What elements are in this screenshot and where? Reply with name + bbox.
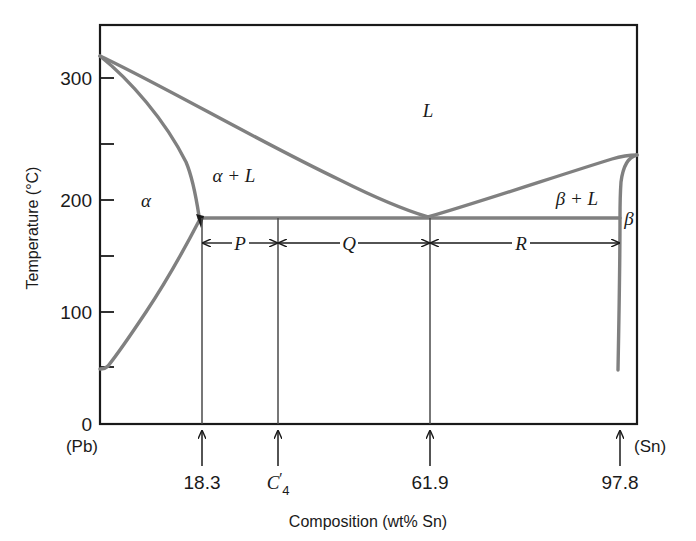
phase-region-labels: α α + L L β + L β <box>141 100 634 229</box>
liquidus-beta-curve <box>428 155 637 217</box>
phase-label-liquid: L <box>422 100 434 121</box>
y-tick-label-200: 200 <box>60 190 92 211</box>
y-tick-label-300: 300 <box>60 68 92 89</box>
phase-label-alpha: α <box>141 190 152 211</box>
composition-label-c4-subscript: 4 <box>282 483 289 498</box>
composition-label-18-3: 18.3 <box>184 472 221 493</box>
solvus-alpha-curve <box>100 219 200 369</box>
phase-diagram-figure: 0 100 200 300 Temperature (°C) <box>0 0 696 541</box>
segment-label-r: R <box>514 233 527 254</box>
y-tick-label-100: 100 <box>60 302 92 323</box>
composition-label-97-8: 97.8 <box>602 472 639 493</box>
x-axis-title: Composition (wt% Sn) <box>289 513 447 530</box>
phase-label-beta-plus-l: β + L <box>555 188 598 209</box>
y-axis-tick-labels: 0 100 200 300 <box>60 68 92 435</box>
composition-labels: 18.3 C′4 61.9 97.8 <box>184 469 639 498</box>
plot-border <box>100 25 637 424</box>
phase-boundary-curves <box>100 56 637 370</box>
y-tick-label-0: 0 <box>81 414 92 435</box>
y-axis-title: Temperature (°C) <box>24 167 41 290</box>
composition-label-c4-main: C <box>267 472 280 493</box>
phase-diagram-canvas: 0 100 200 300 Temperature (°C) <box>0 0 696 541</box>
composition-label-c4: C′4 <box>267 469 290 498</box>
phase-label-alpha-plus-l: α + L <box>213 165 256 186</box>
phase-label-beta: β <box>623 208 634 229</box>
composition-arrows <box>202 431 620 466</box>
segment-label-p: P <box>233 233 246 254</box>
composition-label-61-9: 61.9 <box>412 472 449 493</box>
y-axis-ticks <box>100 78 114 424</box>
endpoint-label-pb: (Pb) <box>66 437 98 456</box>
endpoint-label-sn: (Sn) <box>634 437 666 456</box>
solidus-solvus-beta-curve <box>618 155 637 370</box>
plot-frame <box>100 25 637 424</box>
segment-label-q: Q <box>342 233 356 254</box>
endpoint-labels: (Pb) (Sn) <box>66 437 666 456</box>
